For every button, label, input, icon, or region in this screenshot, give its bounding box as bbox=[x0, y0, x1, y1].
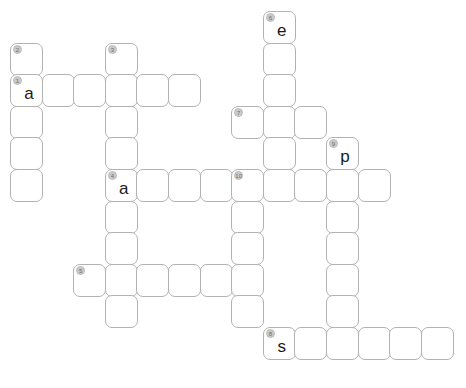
cell-r2c0[interactable]: 1a bbox=[10, 74, 43, 107]
cell-r8c3[interactable] bbox=[105, 264, 138, 297]
cell-r10c11[interactable] bbox=[358, 327, 391, 360]
cell-r10c13[interactable] bbox=[421, 327, 454, 360]
cell-r7c7[interactable] bbox=[231, 232, 264, 265]
cell-r8c5[interactable] bbox=[168, 264, 201, 297]
cell-r5c10[interactable] bbox=[326, 169, 359, 202]
clue-number-badge: 5 bbox=[76, 266, 85, 275]
cell-r10c10[interactable] bbox=[326, 327, 359, 360]
cell-r4c3[interactable] bbox=[105, 137, 138, 170]
clue-number-badge: 3 bbox=[108, 45, 117, 54]
cell-letter: p bbox=[327, 138, 360, 171]
clue-number-badge: 10 bbox=[234, 171, 243, 180]
cell-r2c1[interactable] bbox=[42, 74, 75, 107]
crossword-puzzle: 6e231a79p4a1058s bbox=[0, 0, 466, 388]
cell-r9c7[interactable] bbox=[231, 295, 264, 328]
clue-number-badge: 7 bbox=[234, 108, 243, 117]
cell-r3c3[interactable] bbox=[105, 106, 138, 139]
cell-r8c7[interactable] bbox=[231, 264, 264, 297]
cell-r8c6[interactable] bbox=[200, 264, 233, 297]
cell-r2c8[interactable] bbox=[263, 74, 296, 107]
cell-r10c8[interactable]: 8s bbox=[263, 327, 296, 360]
cell-r0c8[interactable]: 6e bbox=[263, 11, 296, 44]
cell-r6c3[interactable] bbox=[105, 201, 138, 234]
cell-r4c8[interactable] bbox=[263, 137, 296, 170]
cell-r8c10[interactable] bbox=[326, 264, 359, 297]
cell-r7c10[interactable] bbox=[326, 232, 359, 265]
clue-number-badge: 2 bbox=[13, 45, 22, 54]
cell-r10c9[interactable] bbox=[294, 327, 327, 360]
cell-r5c3[interactable]: 4a bbox=[105, 169, 138, 202]
cell-r8c2[interactable]: 5 bbox=[73, 264, 106, 297]
cell-r3c8[interactable] bbox=[263, 106, 296, 139]
cell-r9c10[interactable] bbox=[326, 295, 359, 328]
cell-r6c10[interactable] bbox=[326, 201, 359, 234]
cell-r2c4[interactable] bbox=[136, 74, 169, 107]
cell-r2c3[interactable] bbox=[105, 74, 138, 107]
cell-r5c6[interactable] bbox=[200, 169, 233, 202]
cell-r5c11[interactable] bbox=[358, 169, 391, 202]
cell-r5c0[interactable] bbox=[10, 169, 43, 202]
cell-letter: a bbox=[106, 170, 139, 203]
cell-letter: e bbox=[264, 12, 297, 45]
crossword-grid[interactable]: 6e231a79p4a1058s bbox=[0, 0, 466, 388]
cell-r1c3[interactable]: 3 bbox=[105, 43, 138, 76]
cell-r2c5[interactable] bbox=[168, 74, 201, 107]
cell-r2c2[interactable] bbox=[73, 74, 106, 107]
cell-r5c8[interactable] bbox=[263, 169, 296, 202]
cell-r6c7[interactable] bbox=[231, 201, 264, 234]
cell-r9c3[interactable] bbox=[105, 295, 138, 328]
cell-r5c7[interactable]: 10 bbox=[231, 169, 264, 202]
cell-r4c0[interactable] bbox=[10, 137, 43, 170]
cell-r5c4[interactable] bbox=[136, 169, 169, 202]
cell-r5c9[interactable] bbox=[294, 169, 327, 202]
cell-letter: s bbox=[264, 328, 297, 361]
cell-r3c9[interactable] bbox=[294, 106, 327, 139]
cell-r3c0[interactable] bbox=[10, 106, 43, 139]
cell-r1c0[interactable]: 2 bbox=[10, 43, 43, 76]
cell-r1c8[interactable] bbox=[263, 43, 296, 76]
cell-r7c3[interactable] bbox=[105, 232, 138, 265]
cell-r8c4[interactable] bbox=[136, 264, 169, 297]
cell-r5c5[interactable] bbox=[168, 169, 201, 202]
cell-letter: a bbox=[11, 75, 44, 108]
cell-r3c7[interactable]: 7 bbox=[231, 106, 264, 139]
cell-r4c10[interactable]: 9p bbox=[326, 137, 359, 170]
cell-r10c12[interactable] bbox=[389, 327, 422, 360]
